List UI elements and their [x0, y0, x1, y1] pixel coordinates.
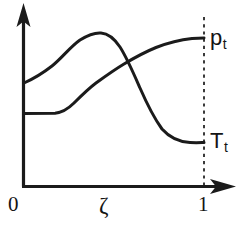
figure-container: 0 1 ζ pt Tt: [0, 0, 243, 225]
x-axis-origin-tick-label: 0: [8, 192, 19, 216]
curve-label-total-pressure-base: p: [210, 25, 222, 50]
x-axis-end-tick-label: 1: [198, 192, 209, 216]
plot-canvas: 0 1 ζ: [0, 0, 243, 225]
curve-label-total-pressure-subscript: t: [223, 36, 227, 52]
x-axis-symbol-zeta: ζ: [99, 193, 109, 218]
curve-label-total-pressure: pt: [210, 27, 227, 51]
curve-label-total-temperature-base: T: [210, 128, 223, 153]
curve-label-total-temperature-subscript: t: [224, 139, 228, 155]
curve-label-total-temperature: Tt: [210, 130, 228, 154]
total-temperature-curve: [24, 33, 204, 143]
total-pressure-curve: [24, 38, 204, 114]
